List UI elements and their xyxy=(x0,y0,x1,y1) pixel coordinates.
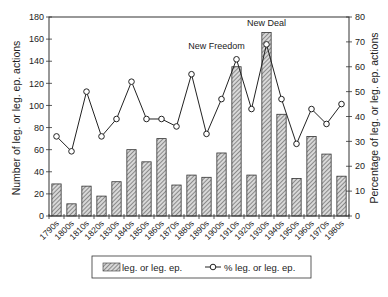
line-marker xyxy=(249,106,255,112)
y2-tick-label: 20 xyxy=(355,161,365,171)
line-marker xyxy=(99,134,105,140)
y-tick-label: 0 xyxy=(39,211,44,221)
bar xyxy=(142,162,151,216)
y2-tick-label: 40 xyxy=(355,112,365,122)
y-tick-label: 160 xyxy=(29,34,44,44)
y2-tick-label: 10 xyxy=(355,186,365,196)
bar xyxy=(277,114,286,216)
bar xyxy=(247,175,256,216)
line-marker xyxy=(129,79,135,85)
line-marker xyxy=(144,116,150,122)
bar xyxy=(127,150,136,216)
line-marker xyxy=(264,42,270,48)
bar xyxy=(322,154,331,216)
chart: 0204060801001201401601800102030405060708… xyxy=(0,0,388,297)
legend-bar-swatch xyxy=(103,263,120,271)
bar xyxy=(307,136,316,216)
bar xyxy=(52,184,61,216)
line-marker xyxy=(159,116,165,122)
y2-tick-label: 30 xyxy=(355,137,365,147)
bar xyxy=(157,139,166,216)
y-tick-label: 20 xyxy=(34,189,44,199)
bar xyxy=(187,175,196,216)
bar xyxy=(202,177,211,216)
line-marker xyxy=(69,149,75,155)
legend: leg. or leg. ep. % leg. or leg. ep. xyxy=(92,256,311,278)
annotation: New Freedom xyxy=(188,41,245,51)
y2-tick-label: 80 xyxy=(355,12,365,22)
legend-line-marker xyxy=(210,264,216,270)
bar xyxy=(337,176,346,216)
y-axis-label: Number of leg. or leg. ep. actions xyxy=(10,41,22,196)
line-marker xyxy=(174,124,180,130)
line-marker xyxy=(204,131,210,137)
line-marker xyxy=(219,96,225,102)
plot-area: 0204060801001201401601800102030405060708… xyxy=(29,12,365,242)
line-marker xyxy=(84,89,90,95)
y2-tick-label: 50 xyxy=(355,87,365,97)
line-marker xyxy=(339,101,345,107)
line-marker xyxy=(114,116,120,122)
line-marker xyxy=(309,106,315,112)
y-tick-label: 80 xyxy=(34,123,44,133)
y-tick-label: 60 xyxy=(34,145,44,155)
line-marker xyxy=(279,96,285,102)
line-marker xyxy=(234,56,240,62)
line-marker xyxy=(54,134,60,140)
bar xyxy=(217,153,226,216)
y2-tick-label: 60 xyxy=(355,62,365,72)
bar xyxy=(232,67,241,216)
y2-tick-label: 0 xyxy=(355,211,360,221)
line-marker xyxy=(324,121,330,127)
bar xyxy=(82,186,91,216)
y-tick-label: 40 xyxy=(34,167,44,177)
bar xyxy=(112,182,121,216)
y-tick-label: 120 xyxy=(29,79,44,89)
y-tick-label: 180 xyxy=(29,12,44,22)
line-marker xyxy=(189,71,195,77)
y2-tick-label: 70 xyxy=(355,37,365,47)
y-tick-label: 100 xyxy=(29,101,44,111)
annotation: New Deal xyxy=(247,18,286,28)
legend-line-label: % leg. or leg. ep. xyxy=(224,262,295,273)
line-marker xyxy=(294,141,300,147)
legend-bar-label: leg. or leg. ep. xyxy=(122,262,182,273)
y2-axis-label: Percentage of leg. or leg. ep. actions xyxy=(368,32,380,203)
y-tick-label: 140 xyxy=(29,56,44,66)
bar xyxy=(172,185,181,216)
bar xyxy=(67,204,76,216)
bar xyxy=(97,196,106,216)
bar xyxy=(292,178,301,216)
